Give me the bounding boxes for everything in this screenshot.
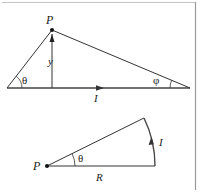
left-angle-label: θ: [22, 75, 27, 86]
current-arrow-icon: [96, 85, 104, 90]
phi-arc: [170, 80, 172, 88]
bottom-point-label: P: [33, 160, 40, 172]
right-angle-label: φ: [153, 75, 159, 86]
sector-theta-arc: [72, 154, 75, 166]
diagram-lines: [0, 0, 200, 193]
arc-arrow-icon: [149, 137, 154, 145]
height-label: y: [48, 56, 53, 67]
sector-point-p-dot: [45, 164, 49, 168]
physics-diagram: P y θ φ I P θ R I: [0, 0, 200, 193]
point-p-dot: [50, 28, 54, 32]
right-side: [52, 30, 190, 88]
top-triangle: [7, 28, 190, 91]
bottom-sector: [45, 118, 155, 168]
top-current-label: I: [94, 93, 98, 104]
top-point-label: P: [46, 14, 53, 26]
height-arrow-icon: [50, 34, 55, 42]
arc-current-label: I: [159, 137, 163, 148]
bottom-angle-label: θ: [78, 153, 83, 164]
radius-label: R: [96, 172, 103, 183]
upper-radius-line: [47, 118, 144, 166]
left-side: [7, 30, 52, 88]
current-arc: [144, 118, 155, 166]
